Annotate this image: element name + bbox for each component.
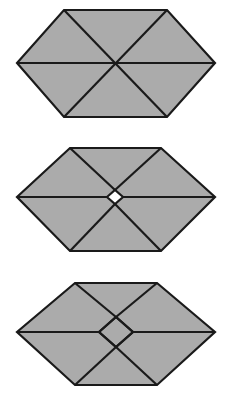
figure-stack xyxy=(0,0,230,402)
hexagon-small-central-rhombus-figure xyxy=(0,134,230,268)
figure-panel-2 xyxy=(0,134,230,268)
hexagon-large-central-rhombus-figure xyxy=(0,268,230,402)
hexagon-six-triangles-figure xyxy=(0,0,230,134)
figure-panel-3 xyxy=(0,268,230,402)
figure-panel-1 xyxy=(0,0,230,134)
